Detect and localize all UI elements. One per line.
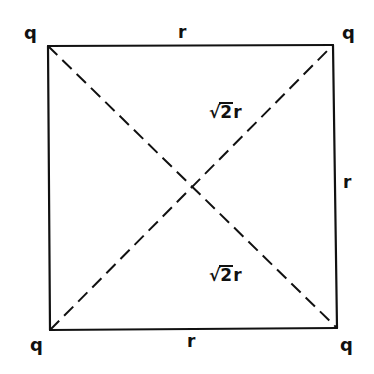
charge-label-top-right: q [342, 24, 355, 42]
sqrt-radicand: 2 [219, 102, 233, 121]
diagonal-label-lower: √2r [209, 265, 242, 284]
square-charges-diagram: q q q q r r r √2r √2r [0, 0, 374, 374]
side-right [333, 45, 337, 328]
charge-label-bottom-left: q [30, 336, 43, 354]
diagonal-var: r [233, 102, 241, 122]
side-bottom [50, 328, 337, 330]
side-label-right: r [343, 174, 351, 191]
charge-label-bottom-right: q [340, 336, 353, 354]
side-left [48, 46, 50, 330]
side-label-bottom: r [187, 333, 195, 350]
diagonal-label-upper: √2r [209, 102, 242, 121]
side-label-top: r [178, 24, 186, 41]
charge-label-top-left: q [24, 24, 37, 42]
side-top [48, 45, 333, 46]
diagonal-var: r [233, 265, 241, 285]
diagonal-bl-tr [50, 45, 333, 330]
diagram-lines [0, 0, 374, 374]
sqrt-radicand: 2 [219, 265, 233, 284]
